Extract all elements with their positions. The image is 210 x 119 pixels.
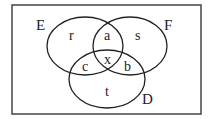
region-f-only-label: s	[135, 28, 140, 43]
region-d-only-label: t	[105, 84, 109, 99]
region-e-f-d-label: x	[104, 52, 111, 67]
region-f-and-d-label: b	[124, 59, 131, 74]
set-d-label: D	[142, 91, 153, 107]
set-e-label: E	[36, 17, 45, 33]
region-e-and-d-label: c	[82, 59, 88, 74]
region-e-only-label: r	[69, 28, 74, 43]
set-f-label: F	[164, 17, 172, 33]
region-e-and-f-label: a	[104, 28, 111, 43]
venn-diagram: E F D r a s c x b t	[0, 0, 210, 119]
